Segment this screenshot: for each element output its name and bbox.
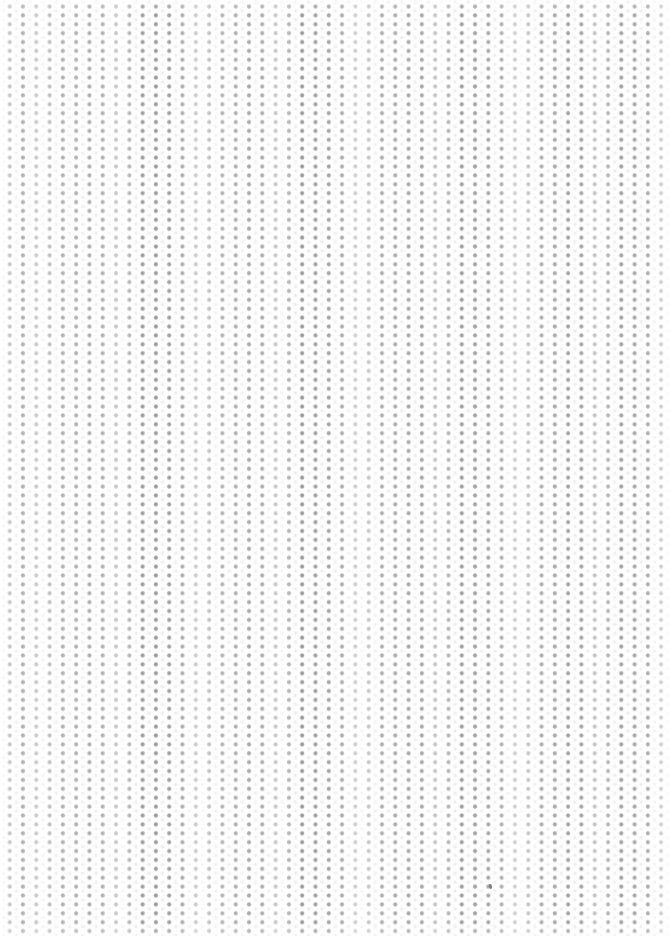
right-edge-fade [646, 0, 672, 936]
vertical-banding-narrow [0, 0, 672, 936]
texture-surface [0, 0, 672, 936]
dot-grid-primary-layer [0, 0, 672, 936]
left-edge-fade [0, 0, 26, 936]
vertical-banding-wide [0, 0, 672, 936]
dot-grid-ghost-layer [0, 0, 672, 936]
top-edge-fade [0, 0, 672, 10]
cursor-speck [489, 884, 493, 890]
bottom-edge-fade [0, 926, 672, 936]
